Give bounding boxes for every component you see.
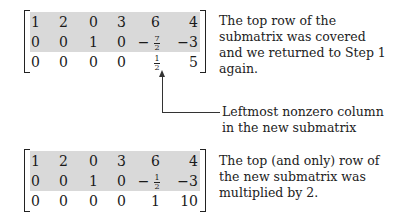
matrix-entry: 0 [117,191,126,211]
matrix-entry: 0 [59,32,68,52]
matrix-entry: 2 [59,151,68,171]
matrix-entry: 0 [59,171,68,191]
matrix-entry: 0 [117,32,126,52]
matrix-before: 1203640010− 72−30000125 [24,10,206,73]
matrix-entry: 5 [189,52,198,72]
matrix-entry: 0 [89,52,98,72]
matrix-entry: 0 [31,191,40,211]
matrix-entry: 0 [59,191,68,211]
matrix-entry: 2 [59,12,68,32]
matrix-entry: 0 [89,151,98,171]
matrix-entry: − 72 [138,32,160,52]
matrix-entry: 1 [89,32,98,52]
matrix-entry: 10 [180,191,198,211]
matrix-row: 0000125 [30,52,202,72]
matrix-entry: 3 [117,151,126,171]
matrix-entry: 1 [31,151,40,171]
matrix-entry: −3 [177,171,198,191]
matrix-entry: −3 [177,32,198,52]
matrix-entry: 0 [59,52,68,72]
matrix-entry: 6 [151,151,160,171]
matrix-entry: 4 [189,151,198,171]
matrix-entry: 6 [151,12,160,32]
matrix-after: 1203640010− 12−30000110 [24,149,206,212]
matrix-entry: 0 [117,171,126,191]
matrix-entry: 0 [117,52,126,72]
matrix-entry: 1 [151,191,160,211]
note-row-multiplied: The top (and only) row of the new submat… [219,153,391,201]
matrix-entry: 0 [89,191,98,211]
matrix-row: 0010− 72−3 [30,32,202,52]
matrix-entry: 0 [31,171,40,191]
matrix-row: 120364 [30,151,202,171]
leader-line-horizontal [162,112,220,113]
matrix-row: 0000110 [30,191,202,211]
matrix-entry: 1 [31,12,40,32]
matrix-entry: 0 [31,32,40,52]
note-covered-row: The top row of the submatrix was covered… [219,13,391,77]
matrix-row: 120364 [30,12,202,32]
annotation-leftmost-column: Leftmost nonzero column in the new subma… [222,104,394,136]
matrix-entry: 12 [154,52,160,72]
matrix-entry: 4 [189,12,198,32]
matrix-entry: 3 [117,12,126,32]
leader-line-vertical [162,75,163,113]
matrix-row: 0010− 12−3 [30,171,202,191]
matrix-entry: − 12 [138,171,160,191]
matrix-entry: 1 [89,171,98,191]
matrix-entry: 0 [89,12,98,32]
matrix-entry: 0 [31,52,40,72]
